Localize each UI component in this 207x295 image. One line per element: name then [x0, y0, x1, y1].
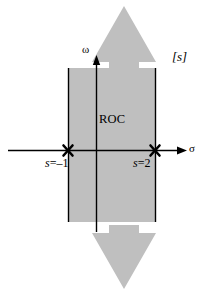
pole-label-left: s=–1: [45, 157, 68, 169]
roc-label: ROC: [99, 113, 125, 126]
roc-extends-up-arrow: [92, 6, 156, 70]
real-axis-arrowhead: [177, 147, 187, 155]
pole-label-right-value: 2: [144, 156, 150, 170]
s-plane-label: [s]: [172, 50, 187, 63]
pole-label-left-value: –1: [56, 156, 68, 170]
s-plane-roc-figure: ω σ [s] ROC s=–1 s=2: [0, 0, 207, 295]
imaginary-axis-label: ω: [82, 44, 89, 55]
roc-extends-down-arrow: [92, 225, 156, 289]
real-axis-label: σ: [189, 143, 195, 154]
pole-label-right: s=2: [133, 157, 150, 169]
roc-region: [68, 68, 155, 222]
figure-canvas: [0, 0, 207, 295]
